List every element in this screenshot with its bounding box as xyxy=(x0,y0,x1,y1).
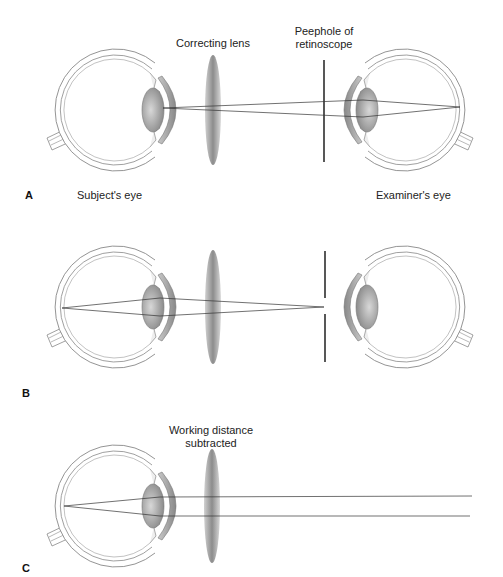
panel-letter-a: A xyxy=(25,189,33,201)
peephole-label-line2: retinoscope xyxy=(296,38,353,51)
panel-c xyxy=(47,445,472,567)
peephole-label-line1: Peephole of xyxy=(295,25,354,38)
examiner-eye-a xyxy=(344,49,473,171)
correcting-lens-c xyxy=(204,449,220,563)
examiner-eye-label: Examiner's eye xyxy=(376,189,451,202)
panel-a xyxy=(47,49,473,171)
correcting-lens-label: Correcting lens xyxy=(176,37,250,50)
working-distance-label-line2: subtracted xyxy=(185,437,236,450)
panel-letter-c: C xyxy=(22,562,30,574)
working-distance-label-line1: Working distance xyxy=(169,424,253,437)
subject-eye-label: Subject's eye xyxy=(77,189,142,202)
correcting-lens-b xyxy=(205,250,221,364)
subject-eye-a xyxy=(47,49,176,171)
retinoscopy-diagram xyxy=(0,0,503,577)
subject-eye-b xyxy=(47,246,176,368)
panel-letter-b: B xyxy=(22,387,30,399)
examiner-eye-b xyxy=(344,246,473,368)
panel-b xyxy=(47,246,473,368)
